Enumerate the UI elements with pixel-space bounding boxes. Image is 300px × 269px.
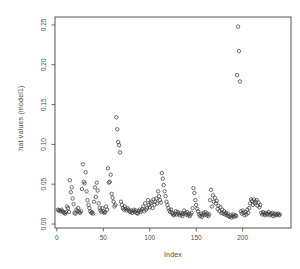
data-point [86,198,89,201]
data-point [209,188,212,191]
x-axis-label: Index [55,251,291,258]
data-point [162,183,165,186]
y-tick-label: 0.10 [40,138,47,151]
data-point [112,200,115,203]
y-tick-label: 0.20 [40,58,47,71]
data-point [208,198,211,201]
data-point [195,203,198,206]
data-point [85,190,88,193]
data-point [94,195,97,198]
data-point [194,198,197,201]
data-point [210,205,213,208]
data-point [235,73,238,76]
data-point [97,202,100,205]
data-point [81,163,84,166]
data-point [80,187,83,190]
data-point [160,171,163,174]
data-point [157,194,160,197]
data-point [93,186,96,189]
data-point [92,200,95,203]
data-point [105,208,108,211]
x-tick-label: 150 [191,234,202,241]
data-point [108,180,111,183]
data-point [115,116,118,119]
data-point [238,80,241,83]
y-tick-label: 0.05 [40,177,47,190]
data-point [146,198,149,201]
data-point [192,186,195,189]
data-point [71,197,74,200]
data-point [96,189,99,192]
data-point [191,206,194,209]
x-tick-label: 50 [100,234,108,241]
data-point [163,190,166,193]
x-tick-label: 200 [237,234,248,241]
data-point [116,128,119,131]
data-point [118,151,121,154]
data-point [110,192,113,195]
data-point [84,171,87,174]
y-tick-label: 0.15 [40,98,47,111]
data-point [213,196,216,199]
data-point [236,25,239,28]
data-point [164,194,167,197]
data-point [161,177,164,180]
plot-box [55,17,291,228]
data-point [156,190,159,193]
r-scatter-plot-window: 0501001502000.000.050.100.150.200.25 Ind… [0,0,300,269]
data-point [117,143,120,146]
y-axis-label: hat values (model1) [17,85,24,150]
data-point [70,186,73,189]
plot-canvas: 0501001502000.000.050.100.150.200.25 [0,0,300,269]
data-point [143,202,146,205]
data-point [193,191,196,194]
data-point [72,202,75,205]
data-point [95,181,98,184]
data-point [106,167,109,170]
y-tick-label: 0.25 [40,18,47,31]
data-point [109,173,112,176]
data-point [69,190,72,193]
data-point [237,50,240,53]
data-point [111,196,114,199]
x-tick-label: 100 [144,234,155,241]
y-tick-label: 0.00 [40,217,47,230]
x-tick-label: 0 [55,234,59,241]
data-point [68,179,71,182]
